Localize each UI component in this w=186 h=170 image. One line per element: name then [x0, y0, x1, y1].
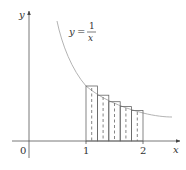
tick-label-1: 1 — [83, 145, 89, 156]
riemann-sum-diagram: 0 1 2 x y y = 1 x — [0, 0, 186, 170]
y-axis-label: y — [18, 9, 25, 20]
svg-text:=: = — [77, 26, 85, 37]
x-axis-label: x — [173, 144, 179, 155]
midpoint-dashed-lines — [92, 88, 138, 141]
function-label: y = 1 x — [68, 21, 96, 43]
rectangle-2 — [97, 95, 108, 141]
origin-label: 0 — [20, 145, 26, 156]
svg-text:x: x — [88, 33, 93, 43]
svg-text:y: y — [68, 26, 75, 37]
svg-text:1: 1 — [89, 21, 95, 31]
tick-label-2: 2 — [140, 145, 146, 156]
